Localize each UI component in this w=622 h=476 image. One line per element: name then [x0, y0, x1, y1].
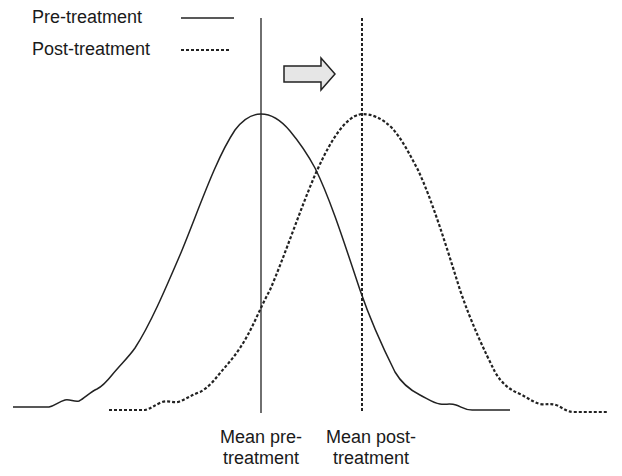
post-mean-label-line1: Mean post-	[312, 427, 430, 448]
post-mean-label: Mean post- treatment	[312, 427, 430, 469]
arrow-right-icon	[284, 58, 335, 90]
legend-pre-treatment-label: Pre-treatment	[32, 7, 142, 27]
post-mean-label-line2: treatment	[312, 448, 430, 469]
pre-mean-label-line1: Mean pre-	[198, 427, 324, 448]
distribution-diagram	[0, 0, 622, 476]
legend-post-treatment-label: Post-treatment	[32, 39, 150, 59]
post-treatment-curve	[109, 114, 607, 412]
pre-mean-label-line2: treatment	[198, 448, 324, 469]
pre-mean-label: Mean pre- treatment	[198, 427, 324, 469]
